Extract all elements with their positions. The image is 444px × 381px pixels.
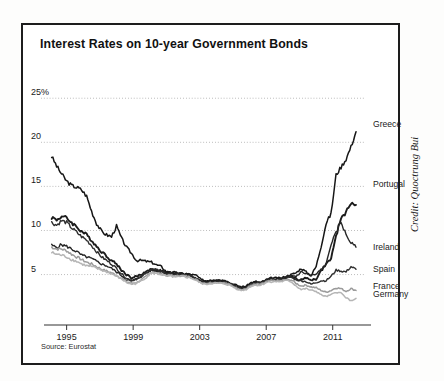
series-label-portugal: Portugal [373, 179, 405, 189]
x-axis-tick-label: 2007 [256, 332, 276, 342]
chart-plot-area: 510152025% 19951999200320072011 GreecePo… [23, 25, 398, 363]
y-axis-tick-label: 5 [31, 264, 36, 274]
series-label-spain: Spain [373, 264, 395, 274]
figure-page: Interest Rates on 10-year Government Bon… [0, 0, 444, 381]
series-path-group [52, 132, 356, 301]
x-axis-tick-label: 2003 [190, 332, 210, 342]
series-label-greece: Greece [373, 119, 401, 129]
x-axis-tick-label: 2011 [323, 332, 342, 342]
x-axis-tick-label: 1999 [123, 332, 143, 342]
series-label-ireland: Ireland [373, 242, 399, 252]
gridline-group [41, 98, 365, 274]
series-line-greece [52, 132, 356, 288]
y-axis-tick-label: 25% [31, 87, 49, 97]
y-axis-tick-label: 15 [31, 175, 41, 185]
x-axis-group [44, 325, 371, 330]
credit-line: Credit: Quoctrung Bui [409, 137, 420, 232]
figure-frame: Interest Rates on 10-year Government Bon… [21, 23, 400, 365]
series-label-germany: Germany [373, 289, 408, 299]
y-axis-tick-label: 10 [31, 219, 41, 229]
line-chart-svg [23, 25, 398, 363]
x-axis-tick-label: 1995 [57, 332, 77, 342]
source-note: Source: Eurostat [41, 342, 96, 351]
y-axis-tick-label: 20 [31, 131, 41, 141]
